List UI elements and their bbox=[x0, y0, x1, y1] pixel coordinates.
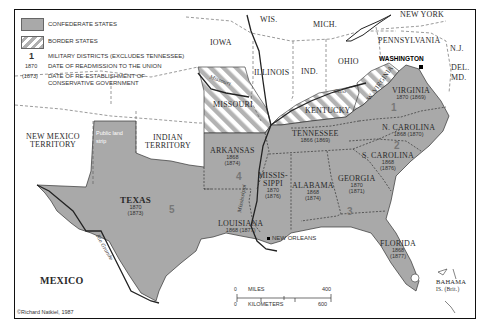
legend-confederate: CONFEDERATE STATES bbox=[48, 21, 117, 27]
legend-district-symbol: 1 bbox=[29, 51, 34, 61]
state-mississippi: MISSIS- SIPPI 1870 (1876) bbox=[258, 172, 288, 199]
district-3: 3 bbox=[347, 207, 353, 217]
scale-zero-miles: 0 bbox=[234, 287, 237, 292]
label-mexico: MEXICO bbox=[40, 276, 83, 286]
state-north-carolina: N. CAROLINA 1868 (1870) bbox=[382, 124, 435, 138]
label-indian-2: TERRITORY bbox=[145, 142, 191, 150]
label-ind: IND. bbox=[301, 68, 318, 76]
label-missouri: MISSOURI bbox=[213, 101, 253, 109]
legend-border: BORDER STATES bbox=[48, 38, 98, 44]
state-tennessee: TENNESSEE 1866 (1869) bbox=[292, 130, 339, 144]
state-texas: TEXAS 1870 (1873) bbox=[120, 196, 151, 216]
state-south-carolina: S. CAROLINA 1868 (1876) bbox=[362, 152, 414, 171]
label-public-land-2: strip bbox=[96, 139, 106, 145]
state-arkansas: ARKANSAS 1868 (1874) bbox=[210, 147, 255, 166]
lake-okeechobee bbox=[411, 274, 419, 282]
scale-km-label: KILOMETERS bbox=[248, 302, 283, 308]
washington-marker bbox=[419, 65, 423, 69]
state-alabama: ALABAMA 1868 (1874) bbox=[292, 182, 334, 201]
state-virginia: VIRGINIA 1870 (1869) bbox=[392, 87, 430, 101]
label-kentucky: KENTUCKY bbox=[305, 107, 351, 115]
label-new-orleans: NEW ORLEANS bbox=[272, 235, 316, 241]
label-ohio: OHIO bbox=[338, 58, 359, 66]
state-louisiana: LOUISIANA 1868 (1877) bbox=[218, 220, 263, 234]
label-illinois: ILLINOIS bbox=[254, 69, 289, 77]
label-iowa: IOWA bbox=[210, 39, 232, 47]
district-1: 1 bbox=[391, 103, 397, 113]
district-4: 4 bbox=[236, 172, 242, 182]
label-washington: WASHINGTON bbox=[379, 56, 424, 63]
legend-conservative-1: DATE OF RE-ESTABLISHMENT OF bbox=[48, 73, 145, 79]
label-mich: MICH. bbox=[313, 21, 337, 29]
state-georgia: GEORGIA 1870 (1871) bbox=[338, 175, 375, 194]
legend-readmission-symbol: 1870 bbox=[25, 63, 37, 69]
scale-miles-label: MILES bbox=[248, 287, 265, 293]
scale-max-km: 600 bbox=[318, 302, 327, 308]
label-md: MD. bbox=[451, 74, 467, 82]
label-nj: N.J. bbox=[450, 45, 464, 53]
credit: ©Richard Natkiel, 1987 bbox=[17, 310, 74, 316]
label-del: DEL. bbox=[451, 64, 469, 72]
district-2: 2 bbox=[394, 141, 400, 151]
new-orleans-marker bbox=[267, 237, 270, 240]
border-swatch bbox=[21, 36, 44, 49]
district-5: 5 bbox=[169, 205, 175, 215]
scale-zero-km: 0 bbox=[234, 302, 237, 307]
legend-conservative-2: CONSERVATIVE GOVERNMENT bbox=[48, 80, 139, 86]
label-new-mexico-2: TERRITORY bbox=[30, 141, 76, 149]
scale-max-miles: 400 bbox=[322, 287, 331, 293]
state-florida: FLORIDA 1868 (1877) bbox=[380, 240, 416, 259]
label-wis: WIS. bbox=[260, 16, 277, 24]
label-bahama-1: BAHAMA bbox=[436, 279, 466, 286]
label-ohio-river: Ohio bbox=[334, 89, 346, 94]
legend-district: MILITARY DISTRICTS (EXCLUDES TENNESSEE) bbox=[48, 53, 184, 59]
label-new-york: NEW YORK bbox=[400, 11, 444, 19]
label-public-land-1: Public land bbox=[96, 131, 123, 137]
label-pennsylvania: PENNSYLVANIA bbox=[378, 37, 440, 45]
confederate-swatch bbox=[21, 18, 44, 31]
legend-conservative-symbol: (1873) bbox=[22, 73, 38, 79]
legend-readmission: DATE OF READMISSION TO THE UNION bbox=[48, 63, 162, 69]
label-bahama-2: IS. (Brit.) bbox=[436, 287, 459, 293]
